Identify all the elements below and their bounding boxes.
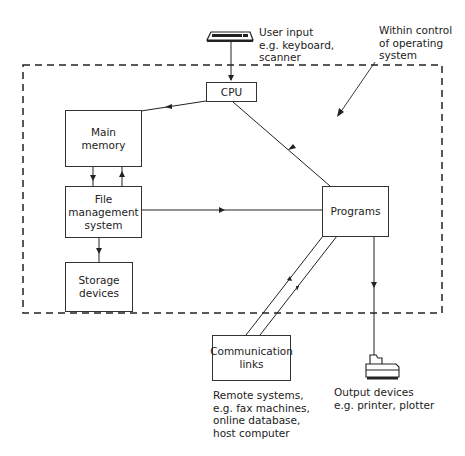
storage-devices-label: Storage devices bbox=[78, 274, 119, 300]
edge-communication-programs bbox=[246, 236, 323, 335]
main-memory-box: Main memory bbox=[65, 110, 142, 167]
communication-links-box: Communication links bbox=[212, 335, 291, 381]
boundary-pointer-line bbox=[340, 62, 375, 113]
edge-programs-communication bbox=[260, 236, 337, 335]
remote-systems-annotation: Remote systems, e.g. fax machines, onlin… bbox=[213, 389, 310, 439]
programs-box: Programs bbox=[322, 186, 389, 237]
storage-devices-box: Storage devices bbox=[65, 262, 133, 312]
cpu-label: CPU bbox=[221, 86, 242, 99]
os-boundary-label: Within control of operating system bbox=[379, 24, 452, 62]
edge-programs-cpu bbox=[233, 102, 330, 186]
file-management-box: File management system bbox=[65, 186, 142, 238]
edge-memory-file-arrowhead bbox=[90, 175, 96, 181]
output-devices-annotation: Output devices e.g. printer, plotter bbox=[334, 386, 434, 411]
edge-programs-printer-arrowhead bbox=[371, 282, 377, 288]
main-memory-label: Main memory bbox=[82, 126, 126, 152]
edge-file-storage-arrowhead bbox=[96, 248, 102, 254]
edge-file-programs-arrowhead bbox=[219, 207, 225, 213]
user-input-annotation: User input e.g. keyboard, scanner bbox=[259, 26, 334, 64]
edge-cpu-main-memory-arrowhead bbox=[165, 104, 172, 109]
communication-links-label: Communication links bbox=[210, 345, 293, 371]
keyboard-icon bbox=[207, 32, 253, 42]
edge-keyboard-cpu-arrowhead bbox=[228, 75, 234, 81]
file-management-label: File management system bbox=[68, 193, 138, 232]
cpu-box: CPU bbox=[206, 82, 257, 102]
edge-programs-cpu-arrowhead bbox=[288, 144, 296, 150]
printer-icon bbox=[366, 355, 399, 380]
edge-cpu-main-memory bbox=[141, 101, 206, 111]
edge-file-memory-arrowhead bbox=[119, 171, 125, 177]
programs-label: Programs bbox=[331, 205, 381, 218]
